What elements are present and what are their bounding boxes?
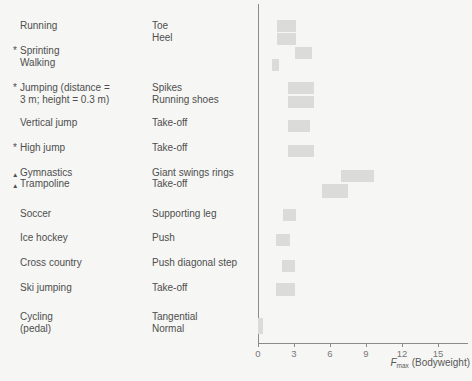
x-axis-tick-label: 3 bbox=[283, 348, 305, 359]
condition-label: Take-off bbox=[152, 282, 187, 294]
force-range-bar bbox=[288, 145, 314, 157]
force-range-bar bbox=[282, 260, 295, 272]
condition-row: Push diagonal step bbox=[0, 257, 472, 269]
force-range-bar bbox=[341, 170, 375, 182]
x-axis-title-subscript: max bbox=[397, 362, 409, 369]
force-range-bar bbox=[288, 82, 314, 94]
force-range-bar bbox=[258, 318, 263, 335]
condition-row: Take-off bbox=[0, 117, 472, 129]
condition-label: Take-off bbox=[152, 178, 187, 190]
force-range-bar bbox=[295, 47, 312, 59]
condition-row: Supporting leg bbox=[0, 208, 472, 220]
condition-row: Spikes bbox=[0, 82, 472, 94]
x-axis-line bbox=[258, 343, 468, 344]
condition-row: Running shoes bbox=[0, 94, 472, 106]
condition-label: Toe bbox=[152, 20, 168, 32]
force-range-bar bbox=[276, 283, 295, 296]
x-axis-tick-label: 6 bbox=[319, 348, 341, 359]
condition-label: Push diagonal step bbox=[152, 257, 237, 269]
condition-label: Spikes bbox=[152, 82, 182, 94]
condition-label: Heel bbox=[152, 32, 173, 44]
condition-row: Heel bbox=[0, 32, 472, 44]
x-axis-tick-label: 9 bbox=[355, 348, 377, 359]
force-chart-figure: Running*SprintingWalking*Jumping (distan… bbox=[0, 0, 472, 381]
force-range-bar bbox=[272, 59, 279, 71]
condition-row: Tangential bbox=[0, 311, 472, 323]
force-range-bar bbox=[277, 33, 296, 45]
condition-row: Toe bbox=[0, 20, 472, 32]
activity-label: Sprinting bbox=[20, 45, 59, 57]
x-axis-tick-label: 15 bbox=[427, 348, 449, 359]
condition-label: Normal bbox=[152, 323, 184, 335]
x-axis-tick-label: 0 bbox=[247, 348, 269, 359]
x-axis-tick-label: 12 bbox=[391, 348, 413, 359]
force-range-bar bbox=[276, 234, 290, 246]
force-range-bar bbox=[288, 96, 314, 108]
force-range-bar bbox=[322, 184, 348, 198]
activity-row: *Sprinting bbox=[0, 45, 472, 57]
condition-row: Take-off bbox=[0, 282, 472, 294]
condition-label: Tangential bbox=[152, 311, 198, 323]
y-axis-line bbox=[258, 4, 259, 343]
force-range-bar bbox=[277, 20, 296, 32]
condition-label: Running shoes bbox=[152, 94, 219, 106]
activity-label: Walking bbox=[20, 57, 55, 69]
condition-label: Supporting leg bbox=[152, 208, 217, 220]
condition-label: Take-off bbox=[152, 142, 187, 154]
condition-row: Take-off bbox=[0, 142, 472, 154]
activity-row: Walking bbox=[0, 57, 472, 69]
condition-row: Push bbox=[0, 232, 472, 244]
asterisk-marker: * bbox=[13, 45, 17, 57]
force-range-bar bbox=[288, 120, 310, 132]
condition-row: Take-off bbox=[0, 178, 472, 190]
condition-label: Push bbox=[152, 232, 175, 244]
condition-row: Normal bbox=[0, 323, 472, 335]
force-range-bar bbox=[283, 209, 296, 221]
condition-label: Take-off bbox=[152, 117, 187, 129]
